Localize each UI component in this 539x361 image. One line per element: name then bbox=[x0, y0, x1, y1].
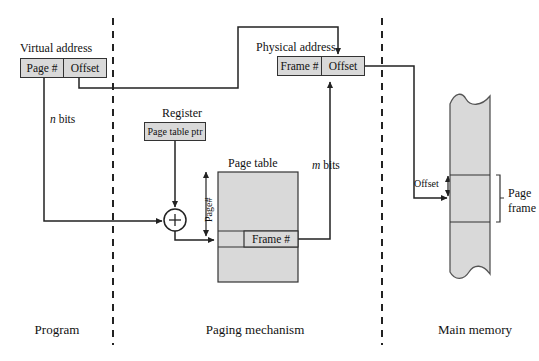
section-caption-program: Program bbox=[22, 322, 92, 338]
figure-canvas: Virtual address Page # Offset n bits Phy… bbox=[0, 0, 539, 361]
page-table-index-label: Page# bbox=[203, 198, 214, 222]
virtual-address-page-number-cell: Page # bbox=[20, 58, 64, 78]
main-memory-strip bbox=[450, 94, 490, 278]
section-caption-paging-mechanism: Paging mechanism bbox=[190, 322, 320, 338]
page-table-frame-entry-label: Frame # bbox=[244, 231, 298, 247]
n-bits-rest: bits bbox=[56, 113, 76, 125]
memory-offset-label: Offset bbox=[414, 179, 439, 189]
page-frame-label-line1: Page bbox=[508, 187, 531, 199]
m-bits-rest: bits bbox=[320, 159, 340, 171]
wire-adder-to-page-table bbox=[175, 231, 214, 240]
page-frame-label-line2: frame bbox=[508, 202, 536, 214]
m-bits-annotation: m bits bbox=[312, 160, 340, 172]
virtual-address-title: Virtual address bbox=[20, 42, 92, 54]
section-caption-main-memory: Main memory bbox=[420, 322, 530, 338]
page-frame-bracket bbox=[496, 175, 504, 222]
register-title: Register bbox=[162, 107, 202, 119]
n-bits-annotation: n bits bbox=[50, 114, 75, 126]
physical-address-frame-number-cell: Frame # bbox=[277, 56, 322, 76]
page-table-title: Page table bbox=[228, 157, 278, 169]
virtual-address-offset-cell: Offset bbox=[63, 58, 107, 78]
page-table-body bbox=[218, 172, 298, 282]
wire-page-number-to-adder bbox=[44, 78, 162, 221]
physical-address-title: Physical address bbox=[256, 41, 336, 53]
register-page-table-ptr-cell: Page table ptr bbox=[144, 122, 206, 141]
physical-address-offset-cell: Offset bbox=[321, 56, 365, 76]
